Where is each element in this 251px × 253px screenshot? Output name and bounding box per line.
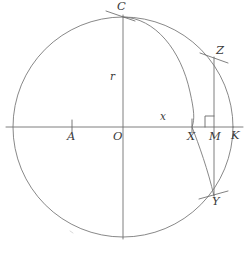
label-segment-x: x: [160, 111, 166, 122]
right-angle-marker: [205, 116, 214, 127]
label-point-x: X: [187, 131, 195, 142]
label-point-y: Y: [212, 196, 220, 207]
label-point-z: Z: [216, 45, 224, 56]
stray-pencil-mark: [70, 231, 73, 233]
label-point-k: K: [231, 130, 240, 141]
label-point-c: C: [117, 1, 126, 12]
figure-canvas: [0, 0, 251, 253]
label-radius-r: r: [110, 71, 115, 82]
arc-c-x-y: [123, 17, 214, 196]
geometry-figure: C r O A x X M K Z Y: [0, 0, 251, 253]
label-point-o: O: [113, 131, 122, 142]
label-point-m: M: [209, 131, 221, 142]
label-point-a: A: [67, 131, 75, 142]
